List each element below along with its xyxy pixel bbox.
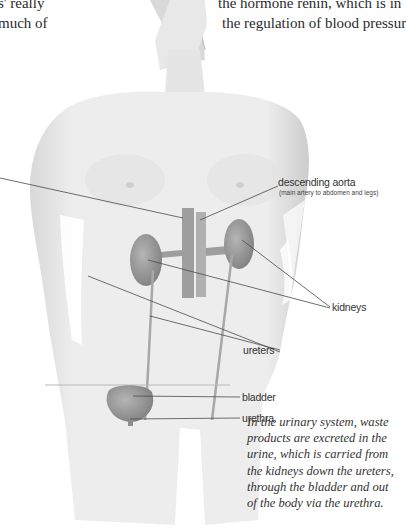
leg-gap [177, 428, 203, 531]
figure-caption: In the urinary system, waste products ar… [247, 414, 392, 511]
caption-line: the kidneys down the ureters, [247, 463, 392, 479]
label-descending-aorta-sub: (main artery to abdomen and legs) [279, 189, 378, 196]
caption-line: urine, which is carried from [247, 446, 392, 462]
neck [165, 50, 205, 95]
vena-cava [196, 212, 206, 297]
label-descending-aorta: descending aorta [278, 176, 355, 188]
kidney-left [130, 234, 162, 286]
label-bladder: bladder [242, 391, 276, 403]
kidney-right [224, 219, 254, 269]
caption-line: through the bladder and out [247, 479, 392, 495]
aorta [182, 208, 194, 298]
caption-line: products are excreted in the [247, 430, 392, 446]
caption-line: of the body via the urethra. [247, 495, 392, 511]
caption-line: In the urinary system, waste [247, 414, 392, 430]
label-kidneys: kidneys [332, 301, 366, 313]
label-ureters: ureters [243, 344, 274, 356]
